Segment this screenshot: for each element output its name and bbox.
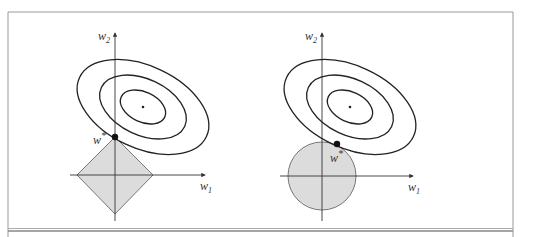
l1-panel: w2 w1 w* bbox=[62, 29, 224, 221]
loss-minimum-dot bbox=[142, 106, 145, 109]
optimum-point bbox=[112, 134, 118, 140]
w1-axis-label: w1 bbox=[200, 179, 212, 195]
figure-frame bbox=[8, 12, 513, 237]
optimum-point bbox=[334, 141, 340, 147]
optimum-label: w* bbox=[93, 130, 106, 147]
regularization-figure: w2 w1 w* w2 w1 w* bbox=[0, 0, 539, 237]
w2-axis-label: w2 bbox=[305, 29, 317, 45]
w2-axis-label: w2 bbox=[98, 29, 110, 45]
l2-panel: w2 w1 w* bbox=[269, 29, 431, 221]
loss-minimum-dot bbox=[349, 106, 352, 109]
w1-axis-label: w1 bbox=[408, 180, 420, 196]
